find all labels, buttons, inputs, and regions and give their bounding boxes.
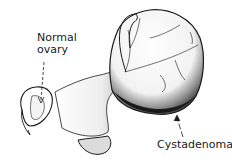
normal-ovary-label-line2: ovary [37,44,77,56]
cystadenoma-mass [110,10,203,115]
lower-structure [78,136,111,154]
normal-ovary-label: Normal ovary [37,32,77,56]
cystadenoma-arrowhead [174,115,180,121]
cystadenoma-label: Cystadenoma [157,139,232,151]
